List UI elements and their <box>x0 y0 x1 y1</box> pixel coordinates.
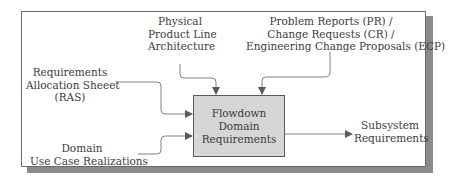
input-ras: Requirements Allocation Sheeet (RAS) <box>26 66 114 104</box>
arrow-change-requests <box>262 52 330 94</box>
input-use-case-realizations: Domain Use Case Realizations <box>30 142 134 167</box>
process-flowdown-domain-requirements: Flowdown Domain Requirements <box>193 95 285 157</box>
process-label-line: Domain <box>202 120 277 133</box>
label-line: Requirements <box>354 132 426 145</box>
input-change-requests: Problem Reports (PR) / Change Requests (… <box>246 15 416 53</box>
arrow-use-case-realizations <box>138 136 192 154</box>
label-line: Physical <box>148 15 212 28</box>
output-subsystem-requirements: Subsystem Requirements <box>354 119 426 144</box>
arrow-ras <box>117 82 192 114</box>
label-line: Subsystem <box>354 119 426 132</box>
arrow-physical-architecture <box>180 64 216 94</box>
label-line: Problem Reports (PR) / <box>246 15 416 28</box>
label-line: Allocation Sheeet <box>26 79 114 92</box>
label-line: (RAS) <box>26 91 114 104</box>
label-line: Domain <box>30 142 134 155</box>
label-line: Engineering Change Proposals (ECP) <box>246 40 416 53</box>
label-line: Change Requests (CR) / <box>246 28 416 41</box>
label-line: Architecture <box>148 40 212 53</box>
label-line: Use Case Realizations <box>30 155 134 168</box>
process-label-line: Requirements <box>202 133 277 146</box>
process-label-line: Flowdown <box>202 107 277 120</box>
input-physical-architecture: Physical Product Line Architecture <box>148 15 212 53</box>
label-line: Requirements <box>26 66 114 79</box>
label-line: Product Line <box>148 28 212 41</box>
